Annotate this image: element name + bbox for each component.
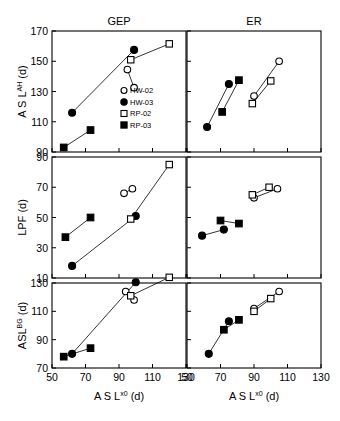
y-tick-label: 110 bbox=[31, 305, 48, 317]
marker-hw-03 bbox=[131, 46, 138, 53]
x-axis-label-col-1: A S Lx0 (d) bbox=[229, 390, 279, 402]
marker-rp-02 bbox=[268, 78, 274, 84]
marker-hw-02 bbox=[124, 66, 131, 73]
series-line-rp-02 bbox=[131, 165, 170, 219]
x-tick-label: 90 bbox=[113, 371, 125, 383]
marker-rp-03 bbox=[219, 109, 226, 116]
marker-rp-03 bbox=[236, 317, 243, 324]
marker-rp-03 bbox=[87, 214, 94, 221]
marker-hw-02 bbox=[251, 93, 258, 100]
column-title-er: ER bbox=[246, 15, 261, 27]
panel-gep-aslbg: 7090110130507090110130 bbox=[30, 274, 194, 383]
marker-hw-02 bbox=[276, 288, 283, 295]
marker-rp-02 bbox=[166, 161, 172, 167]
panel-frame bbox=[52, 31, 186, 152]
y-tick-label: 30 bbox=[36, 242, 48, 254]
panel-gep-lpf: 1030507090 bbox=[36, 151, 186, 284]
y-tick-label: 130 bbox=[30, 86, 48, 98]
y-tick-label: 50 bbox=[36, 212, 48, 224]
marker-hw-03 bbox=[69, 109, 76, 116]
x-tick-label: 70 bbox=[215, 371, 227, 383]
marker-hw-03 bbox=[69, 350, 76, 357]
y-tick-label: 170 bbox=[30, 25, 48, 37]
marker-rp-02 bbox=[249, 100, 255, 106]
marker-rp-02 bbox=[128, 57, 134, 63]
panel-gep-aslah: 90110130150170 bbox=[30, 25, 186, 158]
series-line-hw-02 bbox=[254, 61, 279, 96]
column-title-gep: GEP bbox=[107, 15, 130, 27]
panel-er-aslah bbox=[187, 31, 321, 152]
y-tick-label: 150 bbox=[30, 55, 48, 67]
legend: HW-02HW-03RP-02RP-03 bbox=[121, 86, 153, 130]
marker-hw-03 bbox=[199, 232, 206, 239]
marker-rp-03 bbox=[217, 217, 224, 224]
marker-rp-03 bbox=[62, 234, 69, 241]
marker-hw-02 bbox=[274, 185, 281, 192]
y-axis-label-row-2: ASLBG (d) bbox=[16, 302, 28, 349]
multi-panel-scatter-chart: GEPER90110130150170103050709070901101305… bbox=[0, 0, 340, 421]
legend-marker-hw-03 bbox=[121, 99, 127, 105]
series-line-rp-03 bbox=[64, 130, 91, 147]
marker-hw-03 bbox=[220, 226, 227, 233]
series-line-hw-02 bbox=[254, 292, 279, 309]
y-tick-label: 130 bbox=[30, 277, 48, 289]
marker-rp-03 bbox=[60, 144, 67, 151]
legend-label-hw-02: HW-02 bbox=[130, 86, 153, 95]
marker-rp-02 bbox=[166, 41, 172, 47]
marker-rp-02 bbox=[251, 308, 257, 314]
marker-hw-03 bbox=[69, 262, 76, 269]
marker-rp-03 bbox=[221, 326, 228, 333]
marker-rp-02 bbox=[128, 216, 134, 222]
x-axis-label-col-0: A S Lx0 (d) bbox=[94, 390, 144, 402]
series-line-hw-03 bbox=[72, 216, 136, 266]
x-tick-label: 50 bbox=[181, 371, 193, 383]
marker-rp-02 bbox=[266, 184, 272, 190]
marker-rp-02 bbox=[166, 274, 172, 280]
marker-rp-02 bbox=[268, 295, 274, 301]
marker-rp-02 bbox=[249, 192, 255, 198]
legend-marker-rp-03 bbox=[121, 122, 127, 128]
marker-rp-03 bbox=[60, 353, 67, 360]
marker-hw-03 bbox=[225, 80, 232, 87]
y-axis-label-row-0: A S LAH (d) bbox=[16, 65, 28, 118]
marker-hw-03 bbox=[132, 279, 139, 286]
panel-frame bbox=[187, 31, 321, 152]
svg-text:ASLBG (d): ASLBG (d) bbox=[16, 302, 28, 349]
panel-frame bbox=[52, 157, 186, 278]
panel-frame bbox=[187, 157, 321, 278]
marker-hw-02 bbox=[129, 185, 136, 192]
figure-panel-grid: GEPER90110130150170103050709070901101305… bbox=[0, 0, 340, 421]
panel-er-aslbg: 507090110130 bbox=[181, 283, 330, 383]
x-tick-label: 50 bbox=[46, 371, 58, 383]
x-tick-label: 70 bbox=[80, 371, 92, 383]
legend-marker-hw-02 bbox=[121, 88, 127, 94]
y-tick-label: 90 bbox=[36, 334, 48, 346]
marker-rp-02 bbox=[128, 293, 134, 299]
legend-label-rp-02: RP-02 bbox=[130, 109, 151, 118]
marker-hw-02 bbox=[276, 58, 283, 65]
series-line-rp-03 bbox=[64, 348, 91, 357]
marker-hw-02 bbox=[121, 190, 128, 197]
marker-hw-03 bbox=[204, 124, 211, 131]
y-tick-label: 110 bbox=[31, 116, 48, 128]
panel-er-lpf bbox=[187, 157, 321, 278]
legend-label-rp-03: RP-03 bbox=[130, 121, 151, 130]
y-tick-label: 70 bbox=[36, 181, 48, 193]
legend-label-hw-03: HW-03 bbox=[130, 98, 153, 107]
marker-rp-03 bbox=[236, 220, 243, 227]
x-tick-label: 130 bbox=[312, 371, 330, 383]
marker-hw-03 bbox=[225, 318, 232, 325]
y-axis-label-row-1: LPF (d) bbox=[16, 199, 28, 236]
svg-text:A S LAH (d): A S LAH (d) bbox=[16, 65, 28, 118]
x-tick-label: 110 bbox=[144, 371, 161, 383]
y-tick-label: 90 bbox=[36, 151, 48, 163]
marker-rp-03 bbox=[87, 345, 94, 352]
x-tick-label: 110 bbox=[279, 371, 296, 383]
marker-hw-03 bbox=[205, 350, 212, 357]
svg-text:LPF (d): LPF (d) bbox=[16, 199, 28, 236]
legend-marker-rp-02 bbox=[121, 111, 127, 117]
marker-rp-03 bbox=[87, 127, 94, 134]
x-tick-label: 90 bbox=[248, 371, 260, 383]
marker-rp-03 bbox=[236, 77, 243, 84]
